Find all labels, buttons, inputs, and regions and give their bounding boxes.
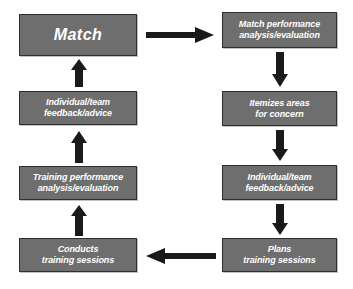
node-itemizes-areas[interactable]: Itemizes areas for concern [222,91,337,126]
node-feedback-right-label: Individual/team feedback/advice [242,172,316,194]
node-feedback-right[interactable]: Individual/team feedback/advice [222,165,337,200]
arrow-down-icon-feedback-right-to-plans [271,204,289,236]
node-feedback-left[interactable]: Individual/team feedback/advice [19,91,137,125]
arrow-right-icon-match-to-match-performance [146,26,216,44]
arrow-up-icon-training-performance-to-feedback-left [70,131,88,163]
node-match[interactable]: Match [19,14,137,56]
node-match-performance-label: Match performance analysis/evaluation [236,19,323,41]
node-plans-training[interactable]: Plans training sessions [222,238,337,272]
node-match-performance[interactable]: Match performance analysis/evaluation [222,12,337,48]
node-conducts-training-label: Conducts training sessions [39,244,117,266]
arrow-left-icon-plans-to-conducts [144,247,216,265]
arrow-down-icon-match-performance-to-itemizes [271,52,289,88]
arrow-up-icon-feedback-left-to-match [70,59,88,87]
node-itemizes-areas-label: Itemizes areas for concern [246,98,312,120]
arrow-down-icon-itemizes-to-feedback-right [271,130,289,162]
node-training-performance[interactable]: Training performance analysis/evaluation [19,166,137,200]
arrow-up-icon-conducts-to-training-performance [70,205,88,236]
node-training-performance-label: Training performance analysis/evaluation [30,172,126,194]
node-feedback-left-label: Individual/team feedback/advice [41,97,115,119]
node-match-label: Match [51,26,106,44]
flowchart-diagram: Match Individual/team feedback/advice Tr… [0,0,353,289]
node-conducts-training[interactable]: Conducts training sessions [19,238,137,272]
node-plans-training-label: Plans training sessions [240,244,318,266]
